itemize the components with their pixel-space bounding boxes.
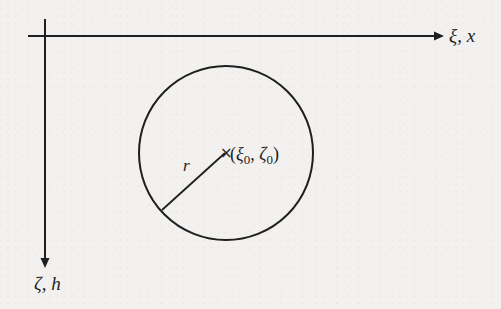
center-label: (ξ0, ζ0) [230, 144, 279, 167]
radius-label: r [183, 156, 190, 175]
scanned-page: ξ, x ζ, h r × (ξ0, ζ0) [0, 0, 501, 309]
arrow-right-icon [434, 32, 444, 41]
coordinate-figure: ξ, x ζ, h r × (ξ0, ζ0) [0, 0, 501, 309]
vertical-axis [41, 19, 50, 268]
horizontal-axis-label: ξ, x [449, 25, 476, 46]
arrow-down-icon [41, 258, 50, 268]
radius-line [162, 153, 225, 210]
horizontal-axis [28, 32, 444, 41]
vertical-axis-label: ζ, h [34, 273, 61, 294]
